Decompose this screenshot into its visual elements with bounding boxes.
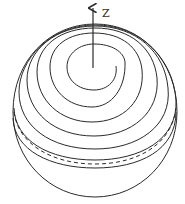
z-axis-label: Z (102, 7, 110, 20)
sphere-spiral-diagram: Z (0, 0, 185, 204)
spiral-curve (13, 25, 176, 168)
